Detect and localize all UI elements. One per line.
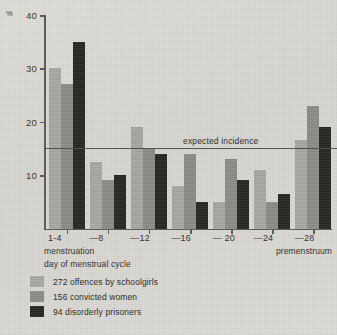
bar [225, 159, 237, 228]
bar [184, 154, 196, 229]
y-tick-label-30: 30 [26, 63, 37, 74]
legend-item: 94 disorderly prisoners [30, 304, 158, 319]
y-tick-20 [40, 122, 45, 124]
bar [213, 202, 225, 229]
bar [73, 42, 85, 229]
bar [61, 84, 73, 228]
y-tick-40 [40, 15, 45, 17]
bar [90, 162, 102, 229]
x-axis-label: —8 [89, 233, 103, 243]
bar [295, 140, 307, 228]
x-tick [67, 230, 69, 234]
bar [307, 106, 319, 229]
bar [155, 154, 167, 229]
legend-item: 156 convicted women [30, 289, 158, 304]
x-axis-label: — 20 [213, 233, 235, 243]
x-tick [108, 230, 110, 234]
bar [278, 194, 290, 229]
bar [102, 180, 114, 228]
x-axis-label: —16 [171, 233, 191, 243]
bar [254, 170, 266, 229]
bar [266, 202, 278, 229]
legend-swatch [30, 291, 44, 302]
y-axis-unit-label: % [6, 9, 13, 18]
x-axis-label: 1-4 [48, 233, 62, 243]
plot-area: 10203040 expected incidence [44, 15, 332, 230]
bar [319, 127, 331, 228]
bar-group [172, 14, 208, 229]
bar-group [131, 14, 167, 229]
x-axis-label: —24 [254, 233, 274, 243]
bar [131, 127, 143, 228]
bar-group [295, 14, 331, 229]
legend-swatch [30, 306, 44, 317]
bar-group [49, 14, 85, 229]
bar [237, 180, 249, 228]
x-axis-label: —28 [295, 233, 315, 243]
y-tick-label-20: 20 [26, 116, 37, 127]
bar-group [213, 14, 249, 229]
caption-menstruation: menstruation [44, 246, 94, 256]
y-tick-10 [40, 175, 45, 177]
legend-label: 156 convicted women [53, 292, 137, 302]
bar-group [254, 14, 290, 229]
y-tick-label-10: 10 [26, 170, 37, 181]
legend-label: 272 offences by schoolgirls [53, 277, 158, 287]
x-axis-title: day of menstrual cycle [44, 259, 131, 269]
legend-label: 94 disorderly prisoners [53, 307, 141, 317]
chart-legend: 272 offences by schoolgirls156 convicted… [30, 274, 158, 319]
legend-swatch [30, 276, 44, 287]
y-tick-label-40: 40 [26, 10, 37, 21]
x-axis-label: —12 [130, 233, 150, 243]
bar [114, 175, 126, 228]
bar-group [90, 14, 126, 229]
bar [196, 202, 208, 229]
legend-item: 272 offences by schoolgirls [30, 274, 158, 289]
bar [172, 186, 184, 229]
expected-incidence-line [44, 148, 337, 149]
bar-chart-figure: % 10203040 expected incidence 1-4—8—12—1… [0, 0, 337, 335]
caption-premenstruum: premenstruum [276, 246, 332, 256]
x-axis-line [44, 229, 332, 231]
expected-incidence-label: expected incidence [183, 136, 258, 146]
bar [143, 148, 155, 228]
y-tick-30 [40, 68, 45, 70]
